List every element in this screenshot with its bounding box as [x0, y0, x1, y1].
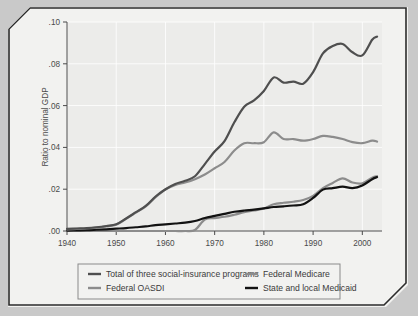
legend: Total of three social-insurance programs…: [88, 269, 357, 293]
y-tick-label: .08: [49, 60, 61, 69]
x-tick-label: 1970: [206, 239, 225, 248]
plot-background: [67, 22, 382, 231]
y-tick-label: .00: [49, 227, 61, 236]
y-tick-label: .10: [49, 18, 61, 27]
x-tick-label: 1950: [107, 239, 126, 248]
legend-label: Federal OASDI: [106, 283, 164, 293]
line-chart: .00.02.04.06.08.10 194019501960197019801…: [0, 0, 418, 316]
y-tick-label: .02: [49, 185, 61, 194]
x-tick-label: 1940: [58, 239, 77, 248]
y-tick-label: .06: [49, 102, 61, 111]
chart-figure: .00.02.04.06.08.10 194019501960197019801…: [0, 0, 418, 316]
y-axis-tick-labels: .00.02.04.06.08.10: [49, 18, 61, 236]
legend-label: Total of three social-insurance programs: [106, 269, 259, 279]
legend-label: State and local Medicaid: [263, 283, 357, 293]
x-tick-label: 1960: [156, 239, 175, 248]
x-tick-label: 2000: [353, 239, 372, 248]
x-tick-label: 1980: [255, 239, 274, 248]
y-axis-title: Ratio to nominal GDP: [41, 87, 50, 167]
y-tick-label: .04: [49, 143, 61, 152]
x-axis-tick-labels: 1940195019601970198019902000: [58, 239, 372, 248]
y-axis-ticks: [63, 22, 67, 231]
x-tick-label: 1990: [304, 239, 323, 248]
legend-label: Federal Medicare: [263, 269, 330, 279]
